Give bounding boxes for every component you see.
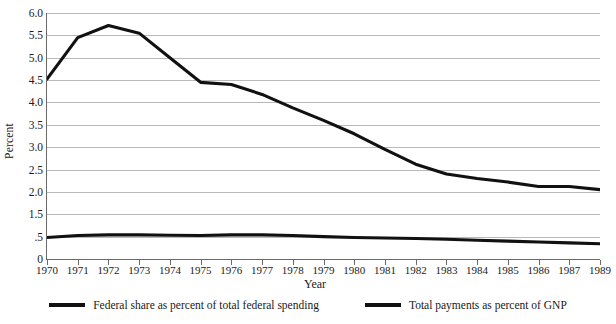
legend-line-icon [49, 303, 85, 307]
x-tick-label: 1970 [36, 264, 58, 276]
x-tick-label: 1976 [220, 264, 242, 276]
x-tick-label: 1971 [67, 264, 89, 276]
y-tick-label: 5.0 [1, 52, 43, 64]
series-line [47, 235, 600, 244]
x-tick-label: 1977 [251, 264, 273, 276]
x-tick-label: 1978 [282, 264, 304, 276]
x-tick-label: 1985 [497, 264, 519, 276]
x-tick-label: 1987 [558, 264, 580, 276]
chart-figure: Percent 6.05.55.04.54.03.53.02.52.01.5.5… [0, 0, 616, 324]
y-tick-label: .5 [1, 231, 43, 243]
x-tick-label: 1975 [190, 264, 212, 276]
y-tick-label: 3.5 [1, 119, 43, 131]
series-layer [47, 13, 600, 259]
x-tick-label: 1972 [97, 264, 119, 276]
x-tick-label: 1982 [405, 264, 427, 276]
legend-item[interactable]: Federal share as percent of total federa… [49, 299, 319, 311]
y-tick-label: 6.0 [1, 7, 43, 19]
x-tick-label: 1989 [589, 264, 611, 276]
y-tick-label: 4.5 [1, 74, 43, 86]
x-tick-label: 1974 [159, 264, 181, 276]
y-tick-label: 2.0 [1, 186, 43, 198]
x-axis-title-text: Year [304, 277, 326, 291]
x-tick-label: 1973 [128, 264, 150, 276]
y-tick-label: 2.5 [1, 164, 43, 176]
y-tick-label: 3.0 [1, 141, 43, 153]
y-tick-label: 4.0 [1, 96, 43, 108]
legend-item[interactable]: Total payments as percent of GNP [365, 299, 567, 311]
y-tick-label: 1.5 [1, 208, 43, 220]
x-tick-label: 1979 [313, 264, 335, 276]
legend-label: Federal share as percent of total federa… [93, 299, 319, 311]
x-tick-label: 1984 [466, 264, 488, 276]
legend-line-icon [365, 303, 401, 307]
y-tick-label: 5.5 [1, 29, 43, 41]
legend-label: Total payments as percent of GNP [409, 299, 567, 311]
x-axis-title: Year [0, 277, 616, 292]
x-tick-label: 1980 [343, 264, 365, 276]
chart-legend: Federal share as percent of total federa… [0, 299, 616, 311]
x-tick-label: 1986 [528, 264, 550, 276]
x-tick-label: 1983 [435, 264, 457, 276]
x-tick-label: 1981 [374, 264, 396, 276]
series-line [47, 26, 600, 190]
